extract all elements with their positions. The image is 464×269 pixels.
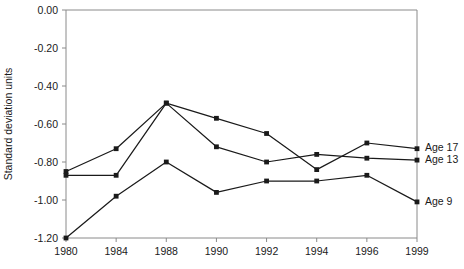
data-point-marker [264, 179, 269, 184]
y-axis-tick-label: -0.60 [34, 118, 58, 130]
data-point-marker [314, 179, 319, 184]
y-axis-tick-label: -1.00 [34, 194, 58, 206]
x-axis-tick-label: 1996 [355, 245, 379, 257]
series-line-age-17 [66, 103, 417, 171]
x-axis-tick-label: 1994 [305, 245, 329, 257]
data-point-marker [364, 156, 369, 161]
y-axis-tick-label: -0.40 [34, 80, 58, 92]
line-chart: 0.00-0.20-0.40-0.60-0.80-1.00-1.20198019… [0, 0, 464, 269]
x-axis-tick-label: 1980 [54, 245, 78, 257]
y-axis-tick-label: -0.80 [34, 156, 58, 168]
series-label-age-13: Age 13 [425, 153, 458, 165]
y-axis-tick-label: -0.20 [34, 42, 58, 54]
series-label-age-9: Age 9 [425, 195, 453, 207]
data-point-marker [314, 152, 319, 157]
x-axis-tick-label: 1984 [104, 245, 128, 257]
data-point-marker [214, 144, 219, 149]
x-axis-tick-label: 1988 [155, 245, 179, 257]
series-line-age-13 [66, 103, 417, 175]
y-axis-tick-label: -1.20 [34, 232, 58, 244]
data-point-marker [164, 160, 169, 165]
data-point-marker [314, 167, 319, 172]
chart-figure: 0.00-0.20-0.40-0.60-0.80-1.00-1.20198019… [0, 0, 464, 269]
data-point-marker [364, 141, 369, 146]
series-line-age-9 [66, 162, 417, 238]
data-point-marker [415, 200, 420, 205]
y-axis-title: Standard deviation units [2, 68, 14, 181]
data-point-marker [264, 131, 269, 136]
data-point-marker [64, 173, 69, 178]
data-point-marker [114, 194, 119, 199]
data-point-marker [164, 101, 169, 106]
x-axis-tick-label: 1992 [255, 245, 279, 257]
series-label-age-17: Age 17 [425, 141, 458, 153]
data-point-marker [214, 116, 219, 121]
data-point-marker [415, 146, 420, 151]
data-point-marker [64, 236, 69, 241]
x-axis-tick-label: 1990 [205, 245, 229, 257]
y-axis-tick-label: 0.00 [38, 4, 59, 16]
data-point-marker [114, 173, 119, 178]
data-point-marker [214, 190, 219, 195]
plot-frame [66, 10, 417, 238]
data-point-marker [415, 158, 420, 163]
data-point-marker [114, 146, 119, 151]
data-point-marker [364, 173, 369, 178]
data-point-marker [264, 160, 269, 165]
x-axis-tick-label: 1999 [405, 245, 429, 257]
